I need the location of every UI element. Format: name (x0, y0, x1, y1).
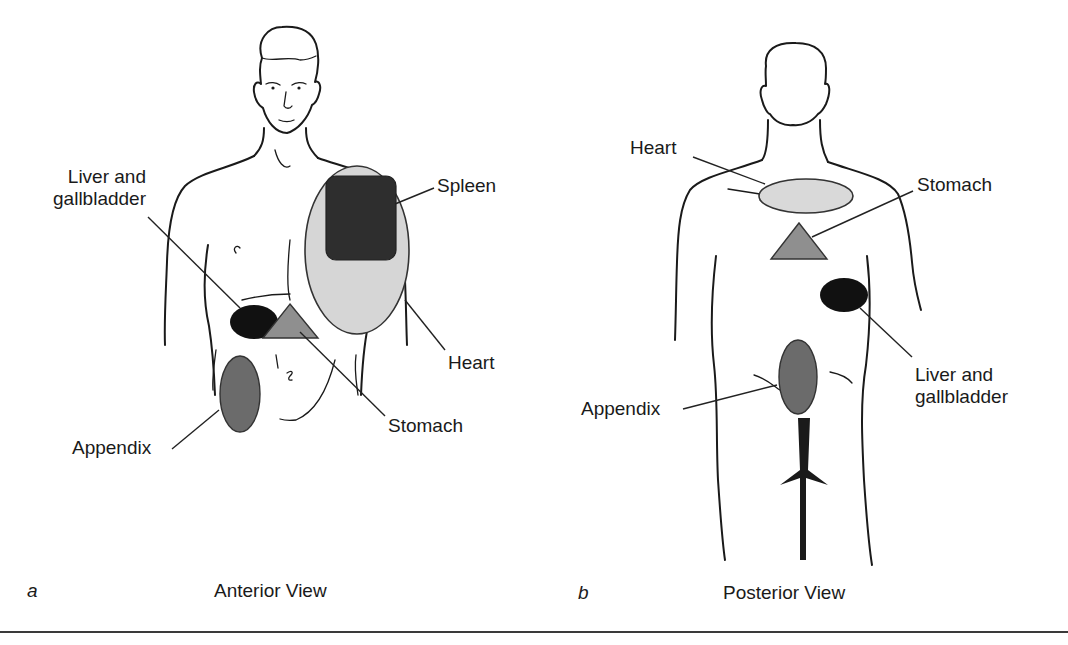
spleen-region-anterior (326, 176, 396, 260)
panel-letter-b: b (578, 582, 589, 604)
label-spleen-anterior: Spleen (437, 175, 496, 197)
label-heart-posterior: Heart (630, 137, 676, 159)
stomach-region-posterior (771, 223, 827, 259)
label-liver-line2: gallbladder (915, 386, 1008, 408)
label-appendix-anterior: Appendix (72, 437, 151, 459)
panel-letter-a: a (27, 580, 38, 602)
posterior-gluteal-cleft (780, 418, 828, 560)
label-liver-line1: Liver and (915, 364, 1008, 386)
label-stomach-posterior: Stomach (917, 174, 992, 196)
appendix-region-anterior (220, 356, 260, 432)
liver-region-posterior (820, 278, 868, 312)
caption-anterior-view: Anterior View (214, 580, 327, 602)
label-liver-posterior: Liver and gallbladder (915, 364, 1008, 408)
heart-region-posterior (759, 179, 853, 213)
label-stomach-anterior: Stomach (388, 415, 463, 437)
label-heart-anterior: Heart (448, 352, 494, 374)
posterior-organs (759, 179, 868, 414)
posterior-body-outline (675, 43, 921, 565)
bottom-divider (0, 631, 1068, 633)
appendix-region-posterior (779, 340, 817, 414)
label-liver-anterior: Liver and gallbladder (30, 166, 146, 210)
label-liver-line2: gallbladder (30, 188, 146, 210)
label-appendix-posterior: Appendix (581, 398, 660, 420)
referred-pain-diagram (0, 0, 1068, 645)
caption-posterior-view: Posterior View (723, 582, 845, 604)
label-liver-line1: Liver and (30, 166, 146, 188)
